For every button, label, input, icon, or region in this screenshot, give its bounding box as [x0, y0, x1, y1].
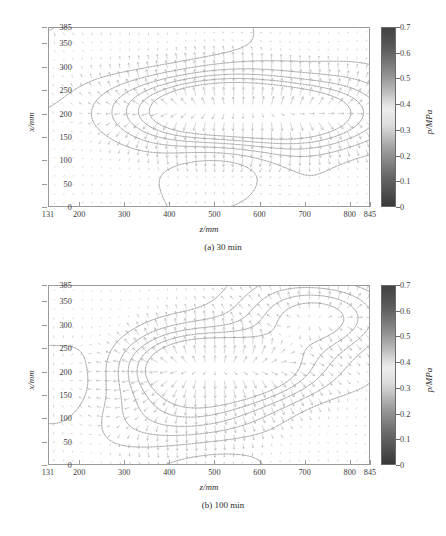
colorbar-tick-label: 0.4 — [400, 358, 410, 367]
colorbar-tick-label: 0 — [400, 202, 404, 211]
ytick-label: 300 — [32, 62, 72, 71]
panel-caption: (a) 30 min — [0, 242, 446, 252]
ytick-label: 385 — [32, 281, 72, 290]
y-axis-label: x/mm — [26, 87, 36, 157]
xtick-label: 700 — [285, 468, 325, 477]
ytick-label: 200 — [32, 109, 72, 118]
xtick-label: 845 — [350, 468, 390, 477]
colorbar-tick-label: 0.1 — [400, 177, 410, 186]
colorbar-tick-label: 0.5 — [400, 332, 410, 341]
colorbar-label: p/MPa — [424, 87, 434, 157]
panel-b: 385 350 300 250 200 150 100 50 0 131 200… — [0, 258, 446, 516]
ytick-label: 300 — [32, 320, 72, 329]
colorbar-gradient — [382, 28, 395, 206]
xtick-label: 600 — [240, 468, 280, 477]
xtick-label: 200 — [59, 468, 99, 477]
xtick-label: 700 — [285, 210, 325, 219]
x-axis-label: z/mm — [48, 224, 370, 234]
colorbar-tick-label: 0.6 — [400, 48, 410, 57]
xtick-label: 500 — [194, 210, 234, 219]
colorbar-tick-label: 0.5 — [400, 74, 410, 83]
colorbar-tick-label: 0.2 — [400, 151, 410, 160]
xtick-label: 845 — [350, 210, 390, 219]
xtick-label: 400 — [149, 210, 189, 219]
ytick-label: 350 — [32, 39, 72, 48]
y-axis-label: x/mm — [26, 345, 36, 415]
contour-quiver-canvas-b — [49, 286, 370, 465]
plot-area-a[interactable] — [48, 27, 370, 207]
figure-root: 385 350 300 250 200 150 100 50 0 131 200… — [0, 0, 446, 536]
x-axis-label: z/mm — [48, 482, 370, 492]
xtick-label: 300 — [104, 468, 144, 477]
xtick-label: 600 — [240, 210, 280, 219]
ytick-label: 50 — [32, 179, 72, 188]
colorbar-gradient — [382, 286, 395, 464]
xtick-label: 400 — [149, 468, 189, 477]
colorbar-tick-label: 0 — [400, 460, 404, 469]
colorbar-tick-label: 0.7 — [400, 23, 410, 32]
ytick-label: 350 — [32, 297, 72, 306]
colorbar-tick-label: 0.2 — [400, 409, 410, 418]
panel-a: 385 350 300 250 200 150 100 50 0 131 200… — [0, 0, 446, 258]
ytick-label: 100 — [32, 414, 72, 423]
xtick-label: 300 — [104, 210, 144, 219]
ytick-label: 385 — [32, 23, 72, 32]
colorbar-b[interactable] — [381, 285, 396, 465]
contour-quiver-canvas-a — [49, 28, 370, 207]
ytick-label: 150 — [32, 132, 72, 141]
colorbar-tick-label: 0.1 — [400, 435, 410, 444]
xtick-label: 500 — [194, 468, 234, 477]
colorbar-tick-label: 0.3 — [400, 125, 410, 134]
xtick-label: 200 — [59, 210, 99, 219]
colorbar-tick-label: 0.7 — [400, 281, 410, 290]
colorbar-tick-label: 0.3 — [400, 383, 410, 392]
ytick-label: 250 — [32, 344, 72, 353]
colorbar-tick-label: 0.4 — [400, 100, 410, 109]
ytick-label: 50 — [32, 437, 72, 446]
colorbar-label: p/MPa — [424, 345, 434, 415]
ytick-label: 250 — [32, 86, 72, 95]
colorbar-tick-label: 0.6 — [400, 306, 410, 315]
ytick-label: 150 — [32, 390, 72, 399]
ytick-label: 200 — [32, 367, 72, 376]
plot-area-b[interactable] — [48, 285, 370, 465]
panel-caption: (b) 100 min — [0, 500, 446, 510]
ytick-label: 100 — [32, 156, 72, 165]
colorbar-a[interactable] — [381, 27, 396, 207]
